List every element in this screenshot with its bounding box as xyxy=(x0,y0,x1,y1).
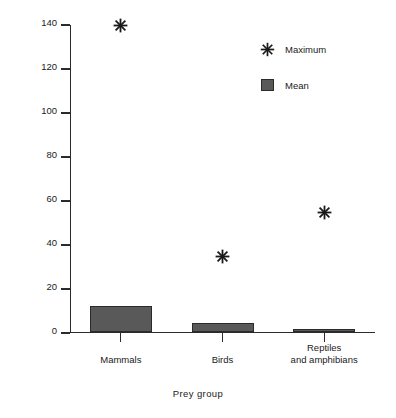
y-tick-label: 40 xyxy=(46,237,57,248)
bar-mean xyxy=(192,323,254,332)
legend-label-maximum: Maximum xyxy=(285,44,326,55)
bar-mean xyxy=(293,329,355,332)
maximum-marker xyxy=(317,205,332,220)
square-swatch-icon xyxy=(258,78,276,93)
maximum-marker xyxy=(113,18,128,33)
y-tick: 100 xyxy=(61,112,70,113)
y-tick-label: 60 xyxy=(46,193,57,204)
legend-item-maximum: Maximum xyxy=(258,40,326,58)
bar-mean xyxy=(90,306,152,331)
x-tick xyxy=(222,333,223,342)
x-axis-title: Prey group xyxy=(0,388,396,399)
y-tick: 40 xyxy=(61,244,70,245)
y-tick: 20 xyxy=(61,288,70,289)
y-tick-label: 0 xyxy=(52,325,57,336)
y-axis-line xyxy=(70,25,71,333)
y-tick: 140 xyxy=(61,24,70,25)
y-tick: 0 xyxy=(61,332,70,333)
plot-area: 020406080100120140 MammalsBirdsReptilesa… xyxy=(70,25,375,333)
legend-label-mean: Mean xyxy=(285,80,309,91)
x-tick xyxy=(120,333,121,342)
maximum-marker xyxy=(215,249,230,264)
y-tick-label: 20 xyxy=(46,281,57,292)
y-tick-label: 100 xyxy=(41,105,57,116)
x-tick xyxy=(324,333,325,342)
y-tick-label: 120 xyxy=(41,61,57,72)
x-tick-label: Reptilesand amphibians xyxy=(264,342,384,365)
y-tick-label: 80 xyxy=(46,149,57,160)
legend: Maximum Mean xyxy=(258,40,326,112)
mean-color-swatch xyxy=(261,79,274,91)
y-tick: 80 xyxy=(61,156,70,157)
y-tick: 120 xyxy=(61,68,70,69)
chart-container: Number predated 020406080100120140 Mamma… xyxy=(0,0,396,418)
y-tick-label: 140 xyxy=(41,17,57,28)
y-tick: 60 xyxy=(61,200,70,201)
legend-item-mean: Mean xyxy=(258,76,326,94)
asterisk-icon xyxy=(258,42,276,57)
